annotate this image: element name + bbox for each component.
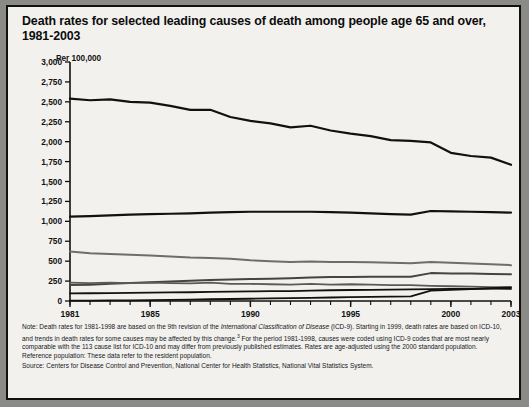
series-line-cerebrovascular-diseases — [70, 252, 511, 266]
axis-lines — [70, 62, 511, 301]
y-tick-label: 3,000 — [41, 57, 62, 67]
x-tick-label: 1995 — [341, 309, 360, 319]
y-tick-label: 2,750 — [41, 77, 62, 87]
x-tick-label: 1990 — [241, 309, 260, 319]
x-axis-ticks: 198119851990199520002003 — [61, 301, 521, 319]
y-tick-label: 0 — [57, 296, 62, 306]
x-tick-label: 2003 — [502, 309, 521, 319]
series-line-diseases-of-heart — [70, 99, 511, 165]
y-tick-label: 1,250 — [41, 196, 62, 206]
note-part1: Note: Death rates for 1981-1998 are base… — [22, 323, 221, 330]
y-tick-label: 500 — [48, 256, 62, 266]
x-tick-label: 2000 — [441, 309, 460, 319]
y-tick-label: 2,500 — [41, 97, 62, 107]
x-tick-label: 1981 — [61, 309, 80, 319]
y-tick-label: 2,250 — [41, 117, 62, 127]
note-italic: International Classification of Disease — [221, 323, 329, 330]
y-tick-label: 750 — [48, 236, 62, 246]
series-lines — [70, 99, 511, 301]
y-axis-ticks: 02505007501,0001,2501,5001,7502,0002,250… — [41, 57, 70, 306]
y-tick-label: 1,000 — [41, 216, 62, 226]
source-line: Source: Centers for Disease Control and … — [22, 362, 509, 371]
series-line-alzheimer-s-disease — [70, 287, 511, 300]
footnotes: Note: Death rates for 1981-1998 are base… — [22, 323, 509, 371]
reference-population: Reference population: These data refer t… — [22, 352, 509, 361]
x-tick-label: 1985 — [141, 309, 160, 319]
y-tick-label: 1,750 — [41, 157, 62, 167]
y-tick-label: 2,000 — [41, 137, 62, 147]
series-line-malignant-neoplasms — [70, 211, 511, 217]
y-tick-label: 1,500 — [41, 177, 62, 187]
y-tick-label: 250 — [48, 276, 62, 286]
note-line: Note: Death rates for 1981-1998 are base… — [22, 323, 509, 352]
series-line-influenza-and-pneumonia — [70, 283, 511, 287]
figure-panel: Death rates for selected leading causes … — [6, 5, 521, 400]
